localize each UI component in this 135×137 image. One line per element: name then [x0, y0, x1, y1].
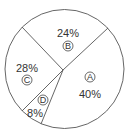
- slice-d-percent: 8%: [27, 107, 43, 119]
- pie-chart: 24% B 28% C A 40% D 8%: [0, 0, 135, 137]
- slice-c-letter: C: [24, 75, 31, 85]
- slice-b-letter: B: [65, 41, 71, 51]
- slice-a-percent: 40%: [79, 88, 101, 100]
- slice-c-percent: 28%: [16, 62, 38, 74]
- slice-a-letter: A: [87, 72, 93, 82]
- pie-chart-svg: 24% B 28% C A 40% D 8%: [0, 0, 135, 137]
- slice-b-percent: 24%: [57, 27, 79, 39]
- slice-d-letter: D: [40, 95, 47, 105]
